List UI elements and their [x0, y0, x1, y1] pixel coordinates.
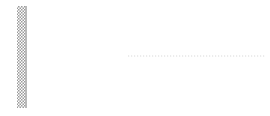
figure-background [0, 0, 270, 116]
fixed-support-wall [17, 6, 26, 108]
beam-discretization-figure [0, 0, 270, 116]
figure-canvas [0, 0, 270, 116]
